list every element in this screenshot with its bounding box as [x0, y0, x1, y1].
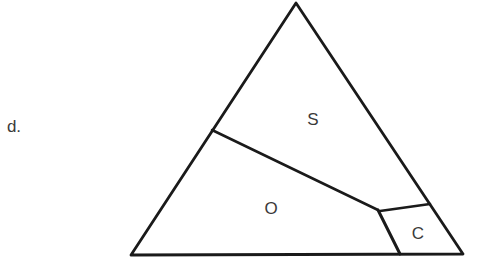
region-label-o: O: [264, 200, 277, 217]
boundary-o-c: [378, 210, 400, 254]
triangle-outline: [131, 3, 463, 255]
region-label-c: C: [412, 225, 424, 242]
region-label-s: S: [307, 111, 318, 128]
boundary-s-c: [380, 204, 430, 211]
boundary-s-o: [212, 130, 378, 210]
